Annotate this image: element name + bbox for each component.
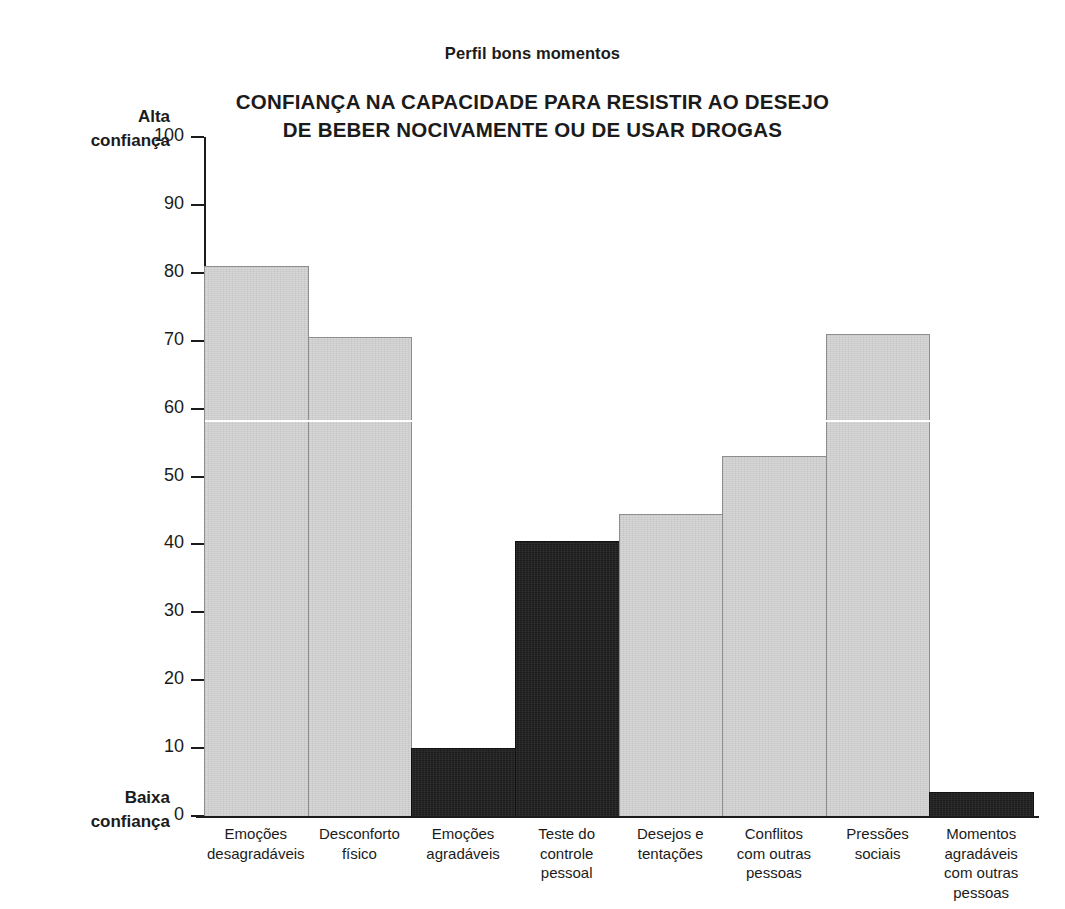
- y-tick-0: [191, 815, 204, 817]
- x-label-line: com outras: [722, 844, 826, 864]
- y-tick-50: [191, 476, 204, 478]
- scan-artifact-top: ......: [0, 0, 1065, 7]
- x-label-line: físico: [308, 844, 412, 864]
- x-label-line: controle: [515, 844, 619, 864]
- plot-area: 0102030405060708090100: [204, 137, 1033, 816]
- y-tick-label-10: 10: [138, 736, 184, 757]
- bar-5: [619, 514, 723, 816]
- x-label-line: Desconforto: [308, 824, 412, 844]
- bar-2: [308, 337, 412, 816]
- x-label-line: Emoções: [411, 824, 515, 844]
- x-label-line: tentações: [619, 844, 723, 864]
- x-label-line: sociais: [826, 844, 930, 864]
- x-label-line: com outras: [929, 863, 1033, 883]
- y-tick-70: [191, 340, 204, 342]
- y-tick-label-100: 100: [138, 125, 184, 146]
- y-tick-30: [191, 611, 204, 613]
- bar-7: [826, 334, 930, 816]
- scan-artifact-text: ......: [523, 0, 542, 1]
- x-label-line: pessoas: [722, 863, 826, 883]
- y-tick-label-20: 20: [138, 668, 184, 689]
- chart-title-line-1: CONFIANÇA NA CAPACIDADE PARA RESISTIR AO…: [236, 90, 829, 113]
- x-label-8: Momentosagradáveiscom outraspessoas: [929, 824, 1033, 902]
- x-label-line: pessoal: [515, 863, 619, 883]
- y-tick-label-40: 40: [138, 532, 184, 553]
- x-label-line: Momentos: [929, 824, 1033, 844]
- x-label-line: Teste do: [515, 824, 619, 844]
- x-label-7: Pressõessociais: [826, 824, 930, 863]
- y-tick-label-50: 50: [138, 465, 184, 486]
- y-tick-label-80: 80: [138, 261, 184, 282]
- x-label-line: pessoas: [929, 883, 1033, 903]
- x-label-line: Conflitos: [722, 824, 826, 844]
- y-tick-label-70: 70: [138, 329, 184, 350]
- y-tick-label-30: 30: [138, 600, 184, 621]
- x-label-5: Desejos etentações: [619, 824, 723, 863]
- y-tick-90: [191, 204, 204, 206]
- bar-8: [929, 792, 1034, 816]
- y-tick-80: [191, 272, 204, 274]
- x-label-line: Pressões: [826, 824, 930, 844]
- y-tick-label-90: 90: [138, 193, 184, 214]
- x-label-1: Emoçõesdesagradáveis: [204, 824, 308, 863]
- x-label-line: Emoções: [204, 824, 308, 844]
- x-label-3: Emoçõesagradáveis: [411, 824, 515, 863]
- x-label-line: agradáveis: [411, 844, 515, 864]
- x-label-line: Desejos e: [619, 824, 723, 844]
- chart-subtitle: Perfil bons momentos: [0, 44, 1065, 63]
- y-tick-label-0: 0: [138, 804, 184, 825]
- chart-figure: ...... Perfil bons momentos CONFIANÇA NA…: [0, 0, 1065, 909]
- bar-1: [204, 266, 309, 816]
- bar-6: [722, 456, 827, 816]
- bar-4: [515, 541, 620, 816]
- x-label-2: Desconfortofísico: [308, 824, 412, 863]
- x-label-line: desagradáveis: [204, 844, 308, 864]
- x-axis-line: [196, 816, 1039, 818]
- bar-3: [411, 748, 516, 816]
- y-tick-20: [191, 679, 204, 681]
- y-tick-10: [191, 747, 204, 749]
- x-label-4: Teste docontrolepessoal: [515, 824, 619, 883]
- x-label-6: Conflitoscom outraspessoas: [722, 824, 826, 883]
- y-tick-60: [191, 408, 204, 410]
- y-tick-100: [191, 136, 204, 138]
- y-tick-40: [191, 543, 204, 545]
- y-tick-label-60: 60: [138, 397, 184, 418]
- x-label-line: agradáveis: [929, 844, 1033, 864]
